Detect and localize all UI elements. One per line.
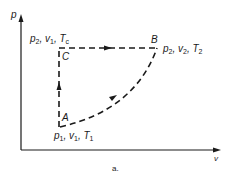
path-c-to-b xyxy=(59,46,157,51)
state-label-c: p2, v1, Tc xyxy=(30,34,69,45)
diagram-canvas xyxy=(0,0,229,189)
figure-caption: a. xyxy=(112,165,119,173)
pv-diagram: p v C B A p2, v1, Tc p2, v2, T2 p1, v1, … xyxy=(0,0,229,189)
x-axis-label: v xyxy=(214,155,218,163)
point-b-label: B xyxy=(151,35,158,45)
point-a-label: A xyxy=(62,113,69,123)
state-label-b: p2, v2, T2 xyxy=(163,44,203,55)
y-axis-arrow-icon xyxy=(19,14,24,22)
y-axis-label: p xyxy=(11,10,17,20)
x-axis-arrow-icon xyxy=(213,148,221,153)
path-a-to-b xyxy=(60,48,157,127)
arrow-up-icon xyxy=(57,82,62,90)
y-axis xyxy=(19,14,24,150)
x-axis xyxy=(21,148,221,153)
point-c-label: C xyxy=(62,52,69,62)
arrow-curve-icon xyxy=(109,95,117,101)
arrow-right-icon xyxy=(104,46,112,51)
path-a-to-c xyxy=(57,48,62,127)
state-label-a: p1, v1, T1 xyxy=(54,131,94,142)
